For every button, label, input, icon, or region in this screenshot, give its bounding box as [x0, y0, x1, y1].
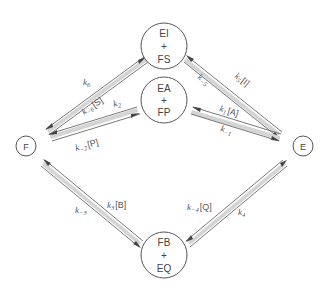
node-ei-fs: EI + FS	[141, 23, 187, 69]
rate-label-k-minus-2-p: k−2[P]	[74, 137, 100, 154]
node-fb-eq-plus: +	[161, 250, 167, 261]
node-ei-fs-plus: +	[161, 41, 167, 52]
node-f: F	[16, 136, 36, 156]
rate-label-k3-b: k3[B]	[107, 200, 126, 211]
rate-label-k6: k6	[83, 77, 91, 88]
rate-label-k1-a: k1[A]	[218, 103, 240, 119]
node-ei-fs-bottom: FS	[158, 54, 171, 65]
node-fb-eq-top: FB	[158, 237, 171, 248]
node-ea-fp-top: EA	[157, 83, 171, 94]
node-ea-fp-bottom: FP	[158, 107, 171, 118]
node-ei-fs-top: EI	[159, 28, 168, 39]
rate-label-k4: k4	[238, 207, 246, 218]
node-ea-fp-plus: +	[161, 95, 167, 106]
node-fb-eq-bottom: EQ	[157, 263, 172, 274]
node-f-label: F	[23, 142, 29, 152]
node-ea-fp: EA + FP	[141, 77, 187, 123]
node-e: E	[293, 136, 313, 156]
arrow-f-fbeq	[41, 159, 143, 248]
node-fb-eq: FB + EQ	[141, 232, 187, 278]
node-e-label: E	[300, 142, 306, 152]
arrow-f-eafp	[48, 107, 140, 141]
rate-label-k-minus-3: k−3	[75, 205, 87, 216]
rate-label-k5-i: k5[I]	[232, 71, 251, 89]
rate-label-k2: k2	[112, 97, 123, 110]
reaction-scheme-diagram: k6 k−6[S] k2 k−2[P] k5[I] k−5 k1[A] k−1 …	[0, 0, 329, 297]
rate-label-k-minus-4-q: k−4[Q]	[187, 202, 212, 213]
